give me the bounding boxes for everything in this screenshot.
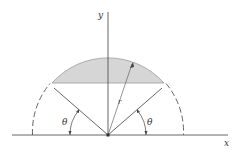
origin-point [107,134,110,137]
theta-arrowhead-left-top [76,109,79,113]
theta-arrowhead-right-top [137,109,140,113]
dashed-arc-right [166,84,184,136]
radius-label: r [118,98,122,106]
theta-label-right: θ [147,117,153,127]
dashed-arc-left [32,84,50,136]
x-axis-label: x [224,138,229,148]
theta-arrowhead-right-bottom [145,131,148,135]
theta-arrowhead-left-bottom [69,131,72,135]
theta-label-left: θ [62,117,68,127]
y-axis-label: y [97,10,104,20]
circular-segment-diagram: y x r θ θ [0,0,237,153]
radial-line-left [54,88,108,135]
